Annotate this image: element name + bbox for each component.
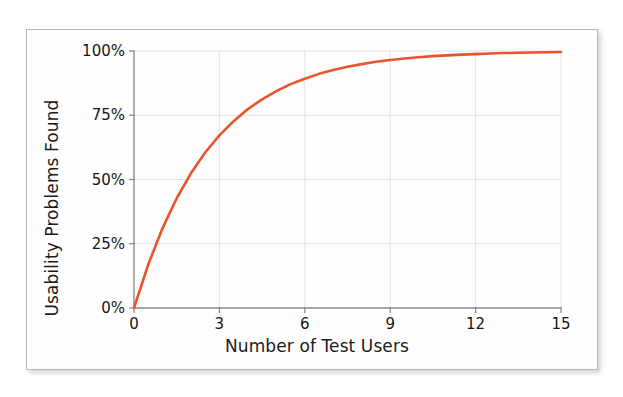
x-tick-label: 3	[194, 315, 244, 333]
x-tick-label: 12	[451, 315, 501, 333]
axis-tick-marks	[129, 51, 561, 313]
plot-svg	[134, 51, 561, 308]
y-axis-tick-labels: 0%25%50%75%100%	[65, 51, 125, 308]
horizontal-gridlines	[134, 51, 561, 308]
x-tick-label: 9	[365, 315, 415, 333]
x-tick-label: 6	[280, 315, 330, 333]
y-axis-title: Usability Problems Found	[39, 73, 65, 343]
data-series-line	[134, 52, 561, 308]
chart-card: Usability Problems Found 0%25%50%75%100%…	[26, 29, 598, 370]
y-tick-label: 25%	[65, 235, 125, 253]
x-tick-label: 0	[109, 315, 159, 333]
plot-area	[134, 51, 561, 308]
y-tick-label: 100%	[65, 42, 125, 60]
x-axis-title: Number of Test Users	[87, 336, 547, 356]
y-tick-label: 75%	[65, 106, 125, 124]
x-axis-tick-labels: 03691215	[134, 315, 561, 337]
y-tick-label: 50%	[65, 171, 125, 189]
x-tick-label: 15	[536, 315, 586, 333]
